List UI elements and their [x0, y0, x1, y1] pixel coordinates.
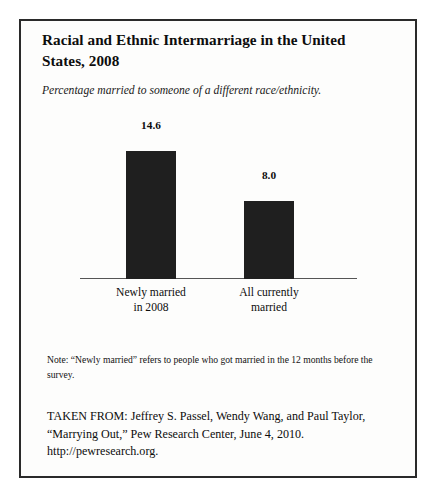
bar-value-label-0: 14.6 [126, 119, 176, 131]
figure-frame: Racial and Ethnic Intermarriage in the U… [19, 19, 417, 478]
x-tick-label-1: All currently married [199, 286, 339, 316]
x-axis-line [80, 278, 357, 279]
figure-source-line-3: http://pewresearch.org. [47, 443, 399, 461]
figure-source-line-2: “Marrying Out,” Pew Research Center, Jun… [47, 426, 399, 444]
bar-group-all-currently-married: 8.0 [244, 121, 294, 279]
figure-subtitle: Percentage married to someone of a diffe… [42, 83, 387, 98]
x-tick-label-1-line-1: All currently [199, 286, 339, 301]
bar-newly-married [126, 151, 176, 279]
bar-chart-plot-area: 14.6 8.0 Newly married in 2008 All curre… [21, 121, 415, 341]
page-title: Racial and Ethnic Intermarriage in the U… [42, 30, 382, 72]
figure-source: TAKEN FROM: Jeffrey S. Passel, Wendy Wan… [47, 408, 399, 461]
bar-value-label-1: 8.0 [244, 169, 294, 181]
x-tick-label-1-line-2: married [199, 301, 339, 316]
bar-group-newly-married: 14.6 [126, 121, 176, 279]
figure-source-line-1: TAKEN FROM: Jeffrey S. Passel, Wendy Wan… [47, 408, 399, 426]
bar-all-currently-married [244, 201, 294, 279]
figure-note: Note: “Newly married” refers to people w… [47, 353, 395, 382]
